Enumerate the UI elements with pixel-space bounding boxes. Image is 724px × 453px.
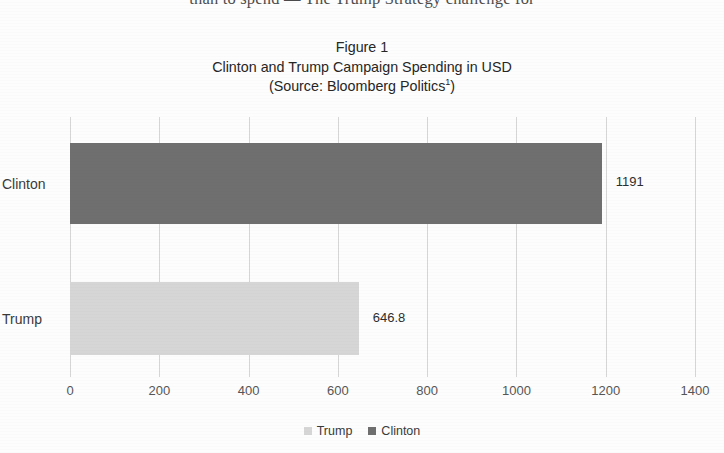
x-tick-label: 1200 xyxy=(591,383,620,398)
bar-value-clinton: 1191 xyxy=(616,174,644,189)
figure-title: Clinton and Trump Campaign Spending in U… xyxy=(0,58,724,78)
plot-area: 1191 646.8 xyxy=(70,117,695,377)
page-running-text-cutoff: than to spend — The Trump Strategy chall… xyxy=(0,0,724,11)
x-tick-label: 200 xyxy=(148,383,170,398)
gridline xyxy=(606,117,607,377)
figure-title-block: Figure 1 Clinton and Trump Campaign Spen… xyxy=(0,38,724,97)
x-tick-label: 1400 xyxy=(681,383,710,398)
source-note-text: (Source: Bloomberg Politics xyxy=(269,78,445,94)
bar-trump xyxy=(70,282,359,355)
legend-item[interactable]: Trump xyxy=(304,424,353,438)
x-tick-label: 600 xyxy=(327,383,349,398)
chart-legend: TrumpClinton xyxy=(0,424,724,438)
figure-source-note: (Source: Bloomberg Politics1) xyxy=(0,77,724,97)
legend-label: Clinton xyxy=(381,424,420,438)
legend-swatch-icon xyxy=(304,427,312,435)
figure-page: than to spend — The Trump Strategy chall… xyxy=(0,0,724,453)
legend-swatch-icon xyxy=(368,427,376,435)
x-tick-label: 0 xyxy=(66,383,73,398)
legend-label: Trump xyxy=(317,424,353,438)
figure-number: Figure 1 xyxy=(0,38,724,58)
bar-clinton xyxy=(70,143,602,224)
category-label-trump: Trump xyxy=(2,311,64,327)
x-tick-label: 400 xyxy=(238,383,260,398)
source-note-closer: ) xyxy=(450,78,455,94)
bar-value-trump: 646.8 xyxy=(373,310,406,325)
x-tick-label: 800 xyxy=(416,383,438,398)
gridline xyxy=(695,117,696,377)
legend-item[interactable]: Clinton xyxy=(368,424,420,438)
x-tick-label: 1000 xyxy=(502,383,531,398)
category-label-clinton: Clinton xyxy=(2,176,64,192)
